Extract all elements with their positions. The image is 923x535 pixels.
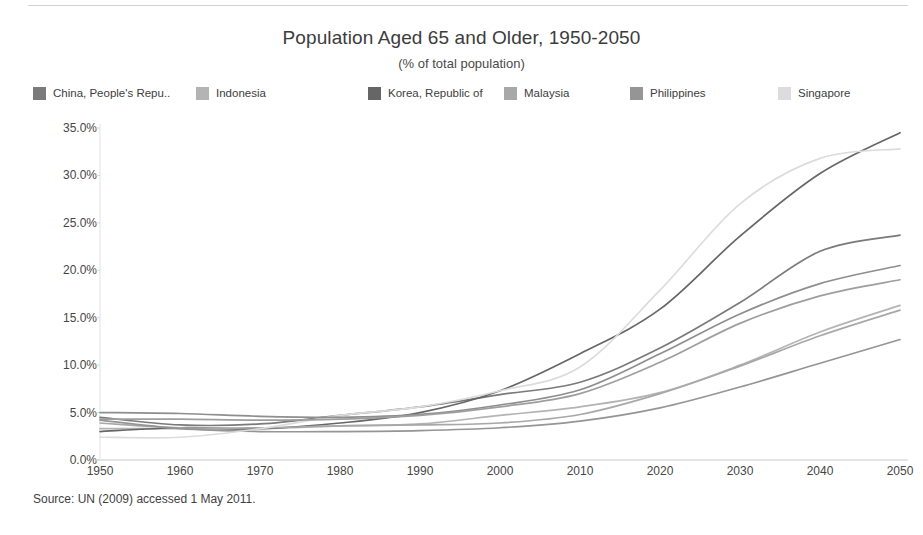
- x-tick-label: 2030: [710, 465, 770, 477]
- x-tick-label: 2040: [790, 465, 850, 477]
- series-line-philippines: [100, 340, 900, 432]
- x-tick-label: 2020: [630, 465, 690, 477]
- x-tick-label: 1970: [230, 465, 290, 477]
- x-tick-label: 1950: [70, 465, 130, 477]
- x-tick-label: 2010: [550, 465, 610, 477]
- x-tick-label: 2000: [470, 465, 530, 477]
- series-line-korea-republic-of: [100, 133, 900, 432]
- series-line-indonesia: [100, 305, 900, 429]
- x-tick-label: 1960: [150, 465, 210, 477]
- x-tick-label: 1990: [390, 465, 450, 477]
- series-line-malaysia: [100, 310, 900, 428]
- x-axis-tick-labels: 1950196019701980199020002010202020302040…: [0, 465, 923, 485]
- plot-area: Share of Total Population 0.0%5.0%10.0%1…: [0, 0, 923, 535]
- series-line-china-people-s-repu: [100, 235, 900, 425]
- source-note: Source: UN (2009) accessed 1 May 2011.: [33, 492, 256, 507]
- chart-figure: Population Aged 65 and Older, 1950-2050 …: [0, 0, 923, 535]
- x-tick-label: 1980: [310, 465, 370, 477]
- x-tick-label: 2050: [870, 465, 923, 477]
- series-lines: [0, 0, 923, 535]
